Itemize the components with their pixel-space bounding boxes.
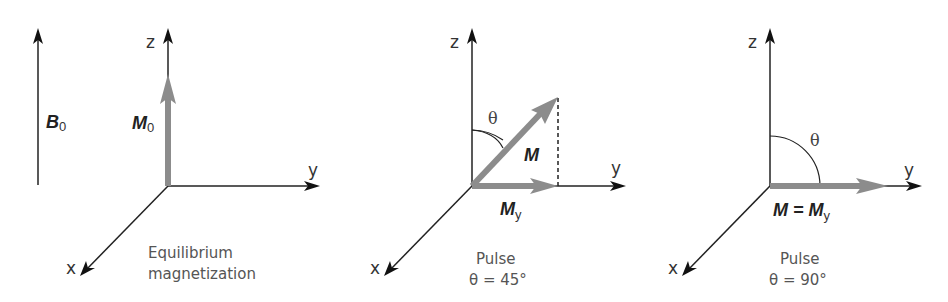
z-axis-label: z: [450, 32, 459, 52]
x-axis-label: x: [668, 258, 678, 278]
x-axis: [390, 186, 472, 270]
theta-arc: [472, 130, 503, 140]
m0-label: M0: [132, 113, 154, 135]
caption-line1: Pulse: [780, 250, 820, 268]
m-label: M: [524, 145, 540, 165]
b0-label: B0: [46, 112, 66, 134]
panel-pulse-45: [384, 28, 626, 276]
m-equals-my-label: M = My: [773, 200, 831, 223]
my-label: My: [500, 199, 522, 222]
panel-equilibrium: [80, 28, 320, 276]
magnetization-diagram: B0 z y x M0 Equilibrium magnetization: [0, 0, 948, 302]
z-axis-label: z: [748, 32, 757, 52]
y-axis-label: y: [904, 160, 914, 180]
y-axis-label: y: [308, 160, 318, 180]
caption-line2: magnetization: [148, 265, 256, 283]
caption-line1: Equilibrium: [148, 244, 233, 262]
theta-label: θ: [488, 109, 498, 128]
my-vector: [472, 183, 542, 189]
b0-field-arrow: [33, 28, 43, 185]
caption-line2: θ = 45°: [469, 271, 527, 289]
theta-label: θ: [810, 131, 820, 150]
x-axis-label: x: [66, 258, 76, 278]
z-axis-label: z: [146, 32, 155, 52]
caption-line1: Pulse: [476, 250, 516, 268]
x-axis-label: x: [370, 258, 380, 278]
panel-pulse-90: [682, 28, 922, 276]
m-vector: [770, 183, 870, 189]
x-axis: [688, 186, 770, 270]
caption-line2: θ = 90°: [769, 271, 827, 289]
m0-vector: [165, 88, 171, 186]
y-axis-label: y: [611, 158, 621, 178]
